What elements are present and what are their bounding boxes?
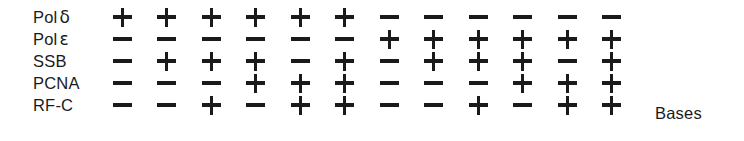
- cell-pcna-col12-plus: [590, 72, 635, 94]
- minus-icon: [380, 103, 399, 106]
- cell-pol-epsilon-col4-minus: [234, 28, 279, 50]
- row-label-text: Pol: [33, 8, 57, 26]
- cell-pcna-col5-plus: [278, 72, 323, 94]
- plus-icon-stem: [432, 30, 435, 49]
- plus-icon-stem: [566, 74, 569, 93]
- cell-ssb-col3-plus: [189, 50, 234, 72]
- matrix-row-pcna: PCNA: [0, 72, 744, 94]
- plus-icon-stem: [210, 8, 213, 27]
- plus-icon-stem: [343, 96, 346, 115]
- cell-ssb-col8-plus: [412, 50, 457, 72]
- cell-rf-c-col6-plus: [323, 94, 368, 116]
- minus-icon: [558, 15, 577, 18]
- plus-icon-stem: [165, 52, 168, 71]
- minus-icon: [113, 59, 132, 62]
- cell-rf-c-col12-plus: [590, 94, 635, 116]
- plus-icon-stem: [610, 30, 613, 49]
- cell-pol-epsilon-col12-plus: [590, 28, 635, 50]
- minus-icon: [246, 103, 265, 106]
- bases-annotation: Bases: [655, 102, 702, 124]
- plus-icon-stem: [388, 30, 391, 49]
- minus-icon: [380, 15, 399, 18]
- matrix-cells: [100, 6, 634, 28]
- minus-icon: [558, 59, 577, 62]
- cell-pol-delta-col4-plus: [234, 6, 279, 28]
- minus-icon: [469, 15, 488, 18]
- cell-pol-epsilon-col1-minus: [100, 28, 145, 50]
- cell-rf-c-col7-minus: [367, 94, 412, 116]
- matrix-row-pol-epsilon: Polε: [0, 28, 744, 50]
- cell-pol-delta-col7-minus: [367, 6, 412, 28]
- minus-icon: [380, 81, 399, 84]
- plus-icon-stem: [343, 52, 346, 71]
- cell-ssb-col12-plus: [590, 50, 635, 72]
- cell-pol-delta-col8-minus: [412, 6, 457, 28]
- matrix-cells: [100, 72, 634, 94]
- minus-icon: [202, 81, 221, 84]
- cell-ssb-col10-plus: [501, 50, 546, 72]
- plus-icon-stem: [610, 96, 613, 115]
- cell-pol-epsilon-col9-plus: [456, 28, 501, 50]
- plus-icon-stem: [121, 8, 124, 27]
- cell-pol-delta-col9-minus: [456, 6, 501, 28]
- cell-pcna-col9-minus: [456, 72, 501, 94]
- cell-pol-epsilon-col5-minus: [278, 28, 323, 50]
- plus-icon-stem: [610, 52, 613, 71]
- cell-pol-delta-col1-plus: [100, 6, 145, 28]
- cell-pcna-col8-minus: [412, 72, 457, 94]
- minus-icon: [113, 103, 132, 106]
- cell-ssb-col6-plus: [323, 50, 368, 72]
- cell-pol-delta-col6-plus: [323, 6, 368, 28]
- cell-rf-c-col3-plus: [189, 94, 234, 116]
- cell-pcna-col2-minus: [145, 72, 190, 94]
- plus-icon-stem: [477, 96, 480, 115]
- plus-icon-stem: [254, 74, 257, 93]
- cell-pol-delta-col2-plus: [145, 6, 190, 28]
- plus-icon-stem: [343, 74, 346, 93]
- row-label-greek-symbol: δ: [57, 7, 70, 27]
- row-label-text: RF-C: [33, 96, 73, 114]
- cell-pol-epsilon-col10-plus: [501, 28, 546, 50]
- plus-icon-stem: [521, 30, 524, 49]
- plus-icon-stem: [254, 52, 257, 71]
- minus-icon: [424, 15, 443, 18]
- cell-rf-c-col5-plus: [278, 94, 323, 116]
- minus-icon: [246, 37, 265, 40]
- cell-rf-c-col4-minus: [234, 94, 279, 116]
- cell-rf-c-col9-plus: [456, 94, 501, 116]
- minus-icon: [291, 59, 310, 62]
- plus-icon-stem: [254, 8, 257, 27]
- cell-ssb-col7-minus: [367, 50, 412, 72]
- matrix-cells: [100, 94, 634, 116]
- minus-icon: [424, 81, 443, 84]
- plus-icon-stem: [566, 96, 569, 115]
- cell-pol-epsilon-col7-plus: [367, 28, 412, 50]
- row-label-pol-delta: Polδ: [0, 6, 100, 28]
- cell-ssb-col4-plus: [234, 50, 279, 72]
- row-label-text: Pol: [33, 30, 57, 48]
- plus-icon-stem: [299, 8, 302, 27]
- cell-ssb-col2-plus: [145, 50, 190, 72]
- cell-pol-delta-col12-minus: [590, 6, 635, 28]
- cell-pol-epsilon-col2-minus: [145, 28, 190, 50]
- figure-root: PolδPolεSSBPCNARF-C Bases: [0, 0, 744, 141]
- minus-icon: [602, 15, 621, 18]
- cell-pol-delta-col10-minus: [501, 6, 546, 28]
- plus-icon-stem: [610, 74, 613, 93]
- plus-icon-stem: [210, 52, 213, 71]
- minus-icon: [157, 37, 176, 40]
- minus-icon: [113, 37, 132, 40]
- cell-pol-epsilon-col8-plus: [412, 28, 457, 50]
- cell-ssb-col9-plus: [456, 50, 501, 72]
- matrix-row-rf-c: RF-C: [0, 94, 744, 116]
- cell-pcna-col3-minus: [189, 72, 234, 94]
- cell-rf-c-col1-minus: [100, 94, 145, 116]
- row-label-text: PCNA: [33, 74, 80, 92]
- cell-rf-c-col10-minus: [501, 94, 546, 116]
- row-label-pol-epsilon: Polε: [0, 28, 100, 50]
- matrix-row-pol-delta: Polδ: [0, 6, 744, 28]
- cell-pcna-col10-plus: [501, 72, 546, 94]
- minus-icon: [202, 37, 221, 40]
- plus-icon-stem: [566, 30, 569, 49]
- cell-ssb-col5-minus: [278, 50, 323, 72]
